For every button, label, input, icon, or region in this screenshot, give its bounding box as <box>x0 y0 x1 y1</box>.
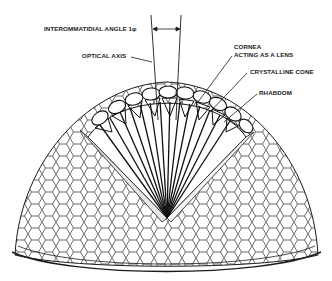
optical-axis-label: OPTICAL AXIS <box>82 52 126 59</box>
cornea-label: CORNEA <box>234 43 261 50</box>
crystalline-cone-label: CRYSTALLINE CONE <box>250 68 314 75</box>
interommatidial-angle-label: INTEROMMATIDIAL ANGLE 1φ <box>44 25 137 32</box>
angle-arrow <box>153 27 180 31</box>
rhabdom-label: RHABDOM <box>259 89 292 96</box>
cornea-lens-label: ACTING AS A LENS <box>234 51 293 58</box>
compound-eye-diagram <box>0 0 332 281</box>
